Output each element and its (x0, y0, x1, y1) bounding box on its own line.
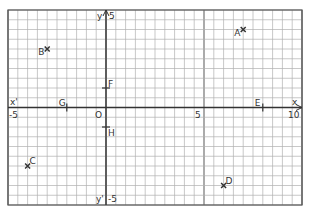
point-label: E (255, 98, 261, 108)
coordinate-grid: x'x-5510y5y'-5O ABCDEFGH (0, 0, 309, 213)
point-e: E (255, 98, 263, 112)
x-tick-label: 5 (195, 110, 201, 120)
x-axis-positive-label: x (292, 97, 298, 107)
point-b: B (38, 47, 50, 58)
point-label: H (108, 128, 115, 138)
point-g: G (59, 98, 67, 112)
point-a: A (234, 27, 246, 38)
x-tick-label: 10 (288, 110, 300, 120)
point-label: B (38, 47, 44, 57)
point-label: F (108, 79, 113, 89)
y-axis-negative-label: y' (96, 194, 104, 204)
point-label: G (59, 98, 66, 108)
point-label: D (226, 176, 233, 186)
point-f: F (102, 79, 113, 89)
point-d: D (221, 176, 233, 189)
point-label: A (234, 28, 241, 38)
origin-label: O (95, 110, 102, 120)
point-label: C (30, 156, 36, 166)
point-h: H (102, 127, 115, 138)
x-tick-label: -5 (9, 110, 18, 120)
point-c: C (25, 156, 36, 169)
y-tick-label: -5 (108, 194, 117, 204)
x-axis-negative-label: x' (10, 97, 18, 107)
y-axis-positive-label: y (97, 11, 103, 21)
y-tick-label: 5 (109, 11, 115, 21)
